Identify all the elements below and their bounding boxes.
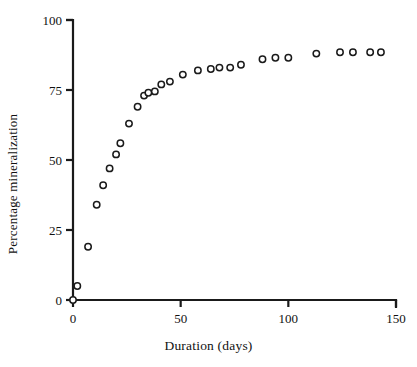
data-point [126,120,132,126]
data-point [378,49,384,55]
x-axis-ticks: 050100150 [70,300,406,326]
data-point [158,81,164,87]
data-point [85,244,91,250]
data-point [106,165,112,171]
data-point [117,140,123,146]
data-point [272,55,278,61]
data-point [350,49,356,55]
y-axis-tick-label: 50 [49,153,62,168]
data-point [145,90,151,96]
axes [66,20,396,308]
y-axis-tick-label: 25 [49,223,62,238]
y-axis-tick-label: 75 [49,83,62,98]
data-point [152,88,158,94]
data-point [167,78,173,84]
data-point [180,71,186,77]
data-point [285,55,291,61]
data-point [93,202,99,208]
data-point [259,56,265,62]
chart-figure: Percentage mineralization Duration (days… [0,0,417,367]
x-axis-tick-label: 100 [279,311,299,326]
data-point [216,64,222,70]
x-axis-tick-label: 0 [70,311,77,326]
data-point [74,283,80,289]
data-point [100,182,106,188]
data-point [70,297,76,303]
data-point-group [70,49,384,303]
data-point [227,64,233,70]
y-axis-title: Percentage mineralization [0,0,26,367]
data-point [367,49,373,55]
x-axis-title: Duration (days) [0,338,417,354]
data-point [337,49,343,55]
data-point [195,67,201,73]
y-axis-tick-label: 100 [43,13,63,28]
data-point [113,151,119,157]
data-point [208,66,214,72]
data-point [313,50,319,56]
y-axis-tick-label: 0 [56,293,63,308]
x-axis-tick-label: 50 [174,311,187,326]
data-point [238,62,244,68]
data-point [134,104,140,110]
scatter-plot-canvas: 0255075100 050100150 [0,0,417,367]
y-axis-title-text: Percentage mineralization [5,113,21,253]
y-axis-ticks: 0255075100 [43,13,74,308]
x-axis-tick-label: 150 [386,311,406,326]
